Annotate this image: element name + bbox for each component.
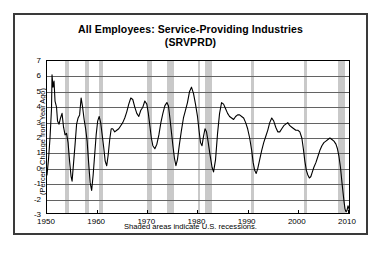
y-tick-label: 4 (15, 102, 41, 111)
chart-footnote: Shaded areas indicate U.S. recessions. (15, 222, 366, 231)
plot-area (46, 60, 350, 214)
y-tick-label: 6 (15, 71, 41, 80)
y-tick-label: 5 (15, 86, 41, 95)
y-tick-label: 1 (15, 148, 41, 157)
y-tick-label: 3 (15, 117, 41, 126)
chart-figure: All Employees: Service-Providing Industr… (13, 13, 368, 235)
y-tick-label: 0 (15, 163, 41, 172)
series-path (47, 75, 350, 212)
y-tick-label: -1 (15, 179, 41, 188)
y-tick-label: -2 (15, 194, 41, 203)
y-tick-label: 7 (15, 56, 41, 65)
series-line (47, 61, 350, 214)
y-tick-label: 2 (15, 133, 41, 142)
